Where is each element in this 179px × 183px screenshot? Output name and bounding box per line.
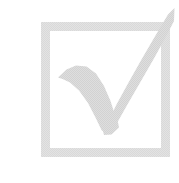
checkbox-icon[interactable]: Light gray checkbox with a check mark <box>0 0 179 183</box>
checkbox-icon-graphic <box>0 0 179 183</box>
